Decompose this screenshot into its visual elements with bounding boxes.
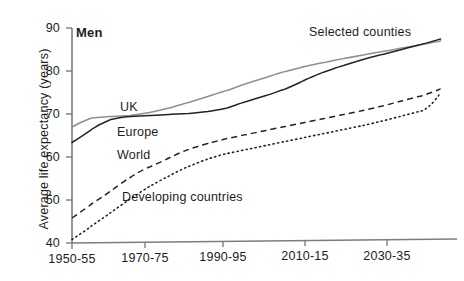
series-label-world: World [117,148,150,162]
y-tick-label-50: 50 [34,193,60,207]
series-label-europe: Europe [117,125,159,139]
x-axis-line [72,239,457,243]
panel-label: Men [76,25,103,40]
y-axis-ticks [66,28,72,243]
y-tick-label-40: 40 [34,236,60,250]
x-tick-label-1970-75: 1970-75 [102,251,188,265]
series-label-developing-countries: Developing countries [122,190,243,204]
y-tick-label-60: 60 [34,150,60,164]
y-tick-label-70: 70 [34,107,60,121]
series-label-uk: UK [120,100,138,114]
y-tick-label-80: 80 [34,64,60,78]
x-tick-label-2010-15: 2010-15 [262,249,348,263]
y-tick-label-90: 90 [34,21,60,35]
x-tick-label-1990-95: 1990-95 [180,250,266,264]
chart-title: Selected counties [309,25,411,39]
chart-plot-area [0,0,464,281]
life-expectancy-chart: Men Selected counties Average life expec… [0,0,464,281]
x-tick-label-2030-35: 2030-35 [344,249,430,263]
